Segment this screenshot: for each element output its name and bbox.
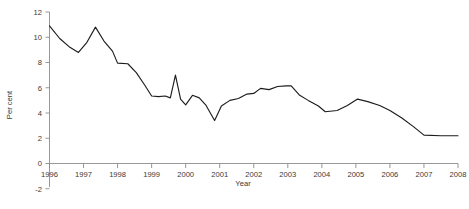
x-tick-label: 1997: [75, 170, 92, 179]
chart-container: 121086420-2 1996199719981999200020012002…: [0, 0, 469, 209]
x-tick-label: 1998: [109, 170, 126, 179]
data-series-line: [50, 26, 459, 136]
x-axis-tick-labels: 1996199719981999200020012002200320042005…: [41, 170, 466, 179]
y-axis-tick-labels: 121086420-2: [34, 8, 42, 194]
x-tick-label: 2007: [416, 170, 433, 179]
x-axis-tick-marks: [50, 164, 459, 169]
x-tick-label: 2002: [245, 170, 262, 179]
x-tick-label: 2003: [279, 170, 296, 179]
x-tick-label: 2008: [450, 170, 467, 179]
x-tick-label: 1999: [143, 170, 160, 179]
x-axis-title: Year: [235, 179, 251, 188]
y-tick-label: 0: [38, 159, 42, 168]
x-tick-label: 2005: [347, 170, 364, 179]
y-tick-label: 10: [34, 33, 42, 42]
x-tick-label: 2001: [211, 170, 228, 179]
y-tick-label: 12: [34, 8, 42, 17]
line-chart: 121086420-2 1996199719981999200020012002…: [0, 0, 469, 209]
x-tick-label: 2000: [177, 170, 194, 179]
x-tick-label: 1996: [41, 170, 58, 179]
y-tick-label: 4: [38, 109, 42, 118]
y-tick-label: -2: [35, 185, 42, 194]
x-tick-label: 2006: [381, 170, 398, 179]
y-tick-label: 8: [38, 58, 42, 67]
y-axis-title: Per cent: [5, 90, 14, 119]
y-tick-label: 2: [38, 134, 42, 143]
y-tick-label: 6: [38, 84, 42, 93]
x-tick-label: 2004: [313, 170, 330, 179]
y-axis-tick-marks: [46, 12, 50, 189]
